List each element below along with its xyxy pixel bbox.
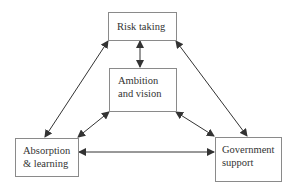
- node-absorption-and-learning: Absorption & learning: [15, 138, 79, 177]
- node-label-line: & learning: [23, 157, 78, 170]
- node-label-line: Risk taking: [117, 20, 176, 33]
- node-risk-taking: Risk taking: [108, 12, 177, 41]
- node-ambition-and-vision: Ambition and vision: [109, 68, 177, 112]
- node-government-support: Government support: [215, 137, 282, 182]
- node-label-line: Absorption: [23, 144, 78, 157]
- node-label-line: and vision: [118, 87, 176, 100]
- arrow-risk-absorption: [45, 41, 108, 137]
- node-label-line: Ambition: [118, 74, 176, 87]
- arrow-risk-government: [176, 41, 247, 136]
- arrow-ambition-government: [176, 112, 214, 136]
- arrow-ambition-absorption: [78, 112, 109, 137]
- node-label-line: support: [222, 156, 281, 169]
- node-label-line: Government: [222, 143, 281, 156]
